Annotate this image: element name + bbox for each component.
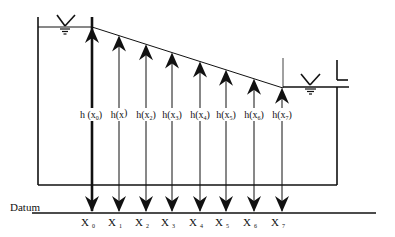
- head-label: h(x2): [136, 109, 156, 121]
- x-position-label: X4: [189, 216, 203, 229]
- x-position-label: X1: [108, 216, 122, 229]
- x-position-label: X7: [271, 216, 285, 229]
- head-labels: h (x0)h(x)h(x2)h(x3)h(x4)h(x5)h(x6)h(x7): [80, 107, 294, 121]
- datum-label: Datum: [10, 201, 40, 213]
- head-label: h (x0): [80, 109, 102, 121]
- head-label: h(x7): [272, 109, 292, 121]
- head-label: h(x6): [244, 109, 264, 121]
- head-diagram: Datum h (x0)h(x)h(x2)h(x3)h(x4)h(x5)h(x6…: [0, 0, 395, 237]
- head-arrow: [193, 61, 207, 212]
- outlet-l-icon: [337, 60, 348, 80]
- x-position-label: X3: [161, 216, 175, 229]
- x-position-label: X5: [215, 216, 229, 229]
- head-arrow: [139, 44, 153, 212]
- hydraulic-grade-line: [92, 27, 283, 88]
- head-arrow: [275, 88, 289, 212]
- head-arrow: [247, 79, 261, 212]
- water-surface-icon-left: [57, 15, 75, 34]
- head-label: h(x4): [190, 109, 210, 121]
- head-arrow: [219, 70, 233, 212]
- water-surface-icon-right: [301, 74, 320, 94]
- head-label: h(x5): [216, 109, 236, 121]
- x-position-label: X6: [243, 216, 257, 229]
- x-labels: X0X1X2X3X4X5X6X7: [81, 216, 285, 229]
- head-label: h(x3): [162, 109, 182, 121]
- x-position-label: X2: [135, 216, 149, 229]
- x-position-label: X0: [81, 216, 95, 229]
- head-arrow: [165, 53, 179, 212]
